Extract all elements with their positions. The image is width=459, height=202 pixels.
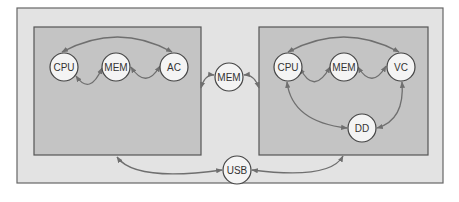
node-label: AC <box>167 62 181 73</box>
node-label: MEM <box>217 72 240 83</box>
node-right-mem[interactable]: MEM <box>330 53 358 81</box>
node-right-dd[interactable]: DD <box>348 114 376 142</box>
node-label: MEM <box>332 62 355 73</box>
node-label: VC <box>394 62 408 73</box>
node-usb[interactable]: USB <box>223 156 251 184</box>
node-label: CPU <box>53 62 74 73</box>
node-left-cpu[interactable]: CPU <box>50 53 78 81</box>
node-label: CPU <box>277 62 298 73</box>
node-left-mem[interactable]: MEM <box>102 53 130 81</box>
architecture-diagram: CPU MEM AC MEM CPU MEM VC DD USB <box>0 0 459 202</box>
left-system-box <box>34 27 201 155</box>
node-shared-mem[interactable]: MEM <box>215 63 243 91</box>
node-left-ac[interactable]: AC <box>160 53 188 81</box>
node-label: DD <box>355 123 369 134</box>
node-right-vc[interactable]: VC <box>387 53 415 81</box>
node-right-cpu[interactable]: CPU <box>274 53 302 81</box>
node-label: USB <box>227 165 248 176</box>
node-label: MEM <box>104 62 127 73</box>
